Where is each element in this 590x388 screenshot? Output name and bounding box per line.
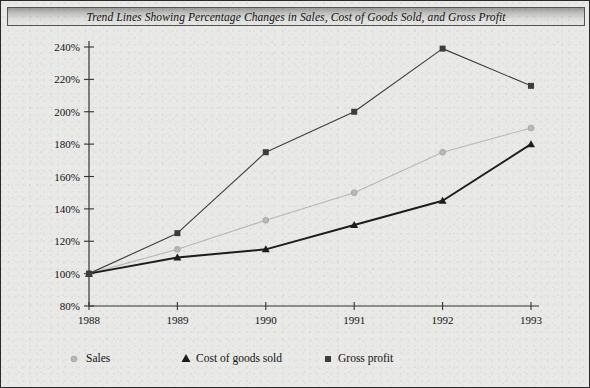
x-axis-tick-label: 1992 — [432, 314, 454, 326]
data-point-cost-of-goods-sold[interactable] — [527, 140, 535, 147]
x-axis-tick-label: 1990 — [255, 314, 278, 326]
legend-marker-gross-profit — [325, 356, 331, 362]
y-axis-tick-label: 200% — [54, 106, 80, 118]
y-axis-tick-label: 140% — [54, 203, 80, 215]
series-line-gross-profit — [89, 49, 531, 274]
chart-frame: Trend Lines Showing Percentage Changes i… — [0, 0, 590, 388]
x-axis-tick-label: 1993 — [520, 314, 543, 326]
y-axis-tick-label: 100% — [54, 268, 80, 280]
data-point-gross-profit[interactable] — [263, 149, 269, 155]
chart-plot-area: 240%220%200%180%160%140%120%100%80%19881… — [1, 27, 590, 388]
legend-marker-cost-of-goods-sold — [182, 354, 191, 362]
x-axis-tick-label: 1991 — [343, 314, 365, 326]
data-point-sales[interactable] — [351, 190, 357, 196]
y-axis-tick-label: 80% — [60, 300, 80, 312]
y-axis-tick-label: 240% — [54, 41, 80, 53]
y-axis-tick-label: 180% — [54, 138, 80, 150]
series-line-sales — [89, 128, 531, 274]
data-point-sales[interactable] — [174, 246, 180, 252]
series-line-cost-of-goods-sold — [89, 144, 531, 274]
chart-title-bar: Trend Lines Showing Percentage Changes i… — [7, 7, 585, 26]
page-title: Trend Lines Showing Percentage Changes i… — [86, 11, 505, 23]
data-point-sales[interactable] — [263, 217, 269, 223]
data-point-sales[interactable] — [440, 149, 446, 155]
data-point-sales[interactable] — [528, 125, 534, 131]
legend-label-cost-of-goods-sold: Cost of goods sold — [196, 352, 282, 365]
data-point-gross-profit[interactable] — [86, 271, 92, 277]
x-axis-tick-label: 1989 — [166, 314, 189, 326]
y-axis-tick-label: 220% — [54, 73, 80, 85]
line-chart-svg: 240%220%200%180%160%140%120%100%80%19881… — [1, 27, 590, 388]
y-axis-tick-label: 160% — [54, 171, 80, 183]
data-point-gross-profit[interactable] — [528, 83, 534, 89]
legend-label-sales: Sales — [86, 352, 111, 364]
legend-marker-sales — [71, 356, 77, 362]
legend-label-gross-profit: Gross profit — [338, 352, 394, 365]
y-axis-tick-label: 120% — [54, 235, 80, 247]
data-point-gross-profit[interactable] — [174, 230, 180, 236]
data-point-gross-profit[interactable] — [440, 46, 446, 52]
data-point-gross-profit[interactable] — [351, 109, 357, 115]
x-axis-tick-label: 1988 — [78, 314, 101, 326]
